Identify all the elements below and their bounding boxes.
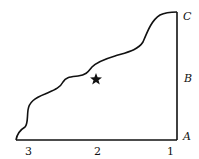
label-2: 2 (94, 145, 101, 158)
diagram-canvas: C B A 3 2 1 (0, 0, 199, 159)
label-1: 1 (167, 145, 174, 158)
star-icon (90, 73, 102, 85)
label-b: B (183, 72, 192, 85)
label-3: 3 (25, 145, 32, 158)
label-a: A (182, 130, 191, 143)
label-c: C (183, 10, 192, 23)
